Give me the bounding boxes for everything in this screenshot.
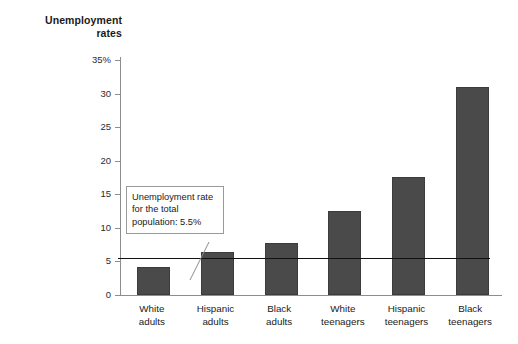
reference-line-5-5-percent <box>118 258 490 259</box>
bar <box>328 211 361 295</box>
y-axis-tick: 30 <box>0 94 120 95</box>
chart-title: Unemployment rates <box>16 14 122 40</box>
callout-annotation: Unemployment rate for the total populati… <box>126 186 224 234</box>
bar <box>392 177 425 295</box>
unemployment-rates-bar-chart: Unemployment rates 35%302520151050 Unemp… <box>0 0 518 344</box>
y-tick-label: 10 <box>100 221 111 234</box>
y-tick-label: 0 <box>106 288 111 301</box>
y-tick-label: 30 <box>100 87 111 100</box>
y-tick-label: 35% <box>92 53 111 66</box>
y-tick-label: 20 <box>100 154 111 167</box>
y-tick-label: 15 <box>100 187 111 200</box>
y-axis-tick: 5 <box>0 261 120 262</box>
y-tick-label: 25 <box>100 120 111 133</box>
y-axis-tick: 10 <box>0 228 120 229</box>
x-axis-label: Black teenagers <box>430 302 510 328</box>
y-axis-tick: 20 <box>0 161 120 162</box>
y-axis-tick: 15 <box>0 194 120 195</box>
y-axis-tick: 0 <box>0 295 120 296</box>
plot-area <box>120 58 502 296</box>
y-axis-tick: 25 <box>0 127 120 128</box>
bar <box>456 87 489 295</box>
bar <box>137 267 170 295</box>
bar <box>265 243 298 295</box>
y-axis-tick: 35% <box>0 60 120 61</box>
y-tick-label: 5 <box>106 254 111 267</box>
